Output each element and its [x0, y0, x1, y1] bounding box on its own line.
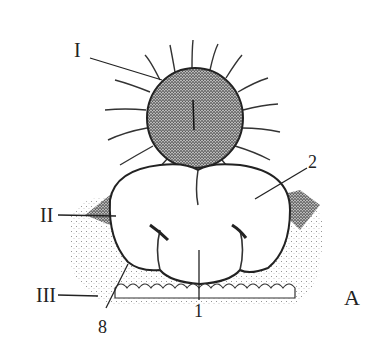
leader-I	[90, 58, 162, 80]
label-1: 1	[194, 302, 203, 320]
label-roman-II: II	[40, 205, 53, 225]
leader-III	[58, 295, 98, 296]
lobed-body	[110, 164, 290, 284]
label-8: 8	[98, 318, 107, 336]
label-2: 2	[308, 153, 317, 171]
central-sphere	[147, 68, 243, 168]
panel-label-A: A	[344, 287, 360, 309]
label-roman-I: I	[74, 40, 81, 60]
scalloped-edge	[115, 284, 295, 298]
label-roman-III: III	[36, 285, 56, 305]
